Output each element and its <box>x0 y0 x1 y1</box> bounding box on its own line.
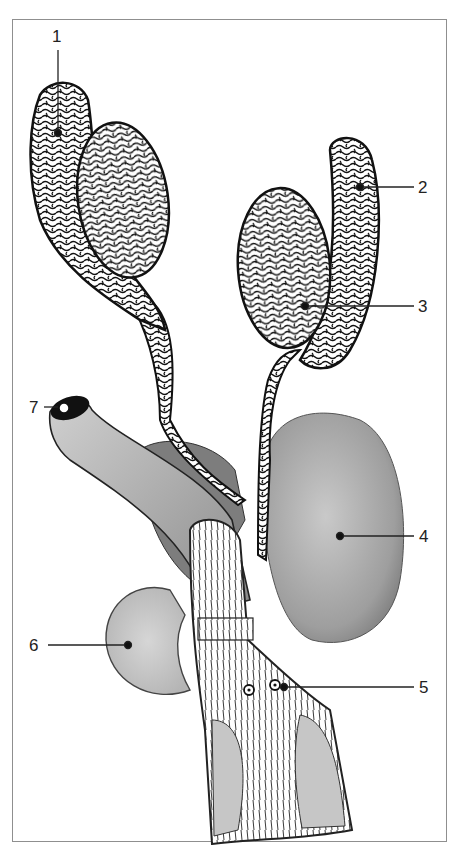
label-4: 4 <box>419 528 428 545</box>
label-2: 2 <box>418 179 427 196</box>
structure-4 <box>262 413 404 642</box>
label-1: 1 <box>52 28 61 45</box>
anatomical-illustration <box>0 0 460 856</box>
label-5: 5 <box>419 679 428 696</box>
label-7: 7 <box>29 399 38 416</box>
label-3: 3 <box>418 298 427 315</box>
structure-6 <box>106 587 190 694</box>
label-6: 6 <box>29 637 38 654</box>
